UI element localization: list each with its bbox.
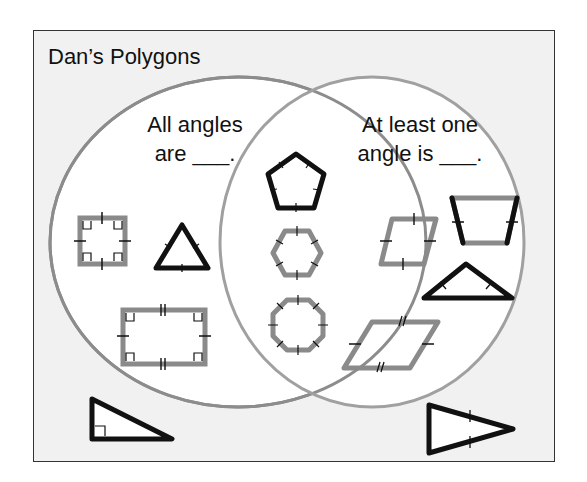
right-triangle-shape: [92, 399, 172, 439]
right-label-line1: At least one: [340, 110, 500, 139]
right-circle-label: At least one angle is ___.: [340, 110, 500, 168]
left-label-line2: are ___.: [120, 139, 270, 168]
left-label-line1: All angles: [120, 110, 270, 139]
venn-diagram: [0, 0, 587, 482]
left-circle-label: All angles are ___.: [120, 110, 270, 168]
right-label-line2: angle is ___.: [340, 139, 500, 168]
acute-triangle-shape: [429, 405, 513, 453]
